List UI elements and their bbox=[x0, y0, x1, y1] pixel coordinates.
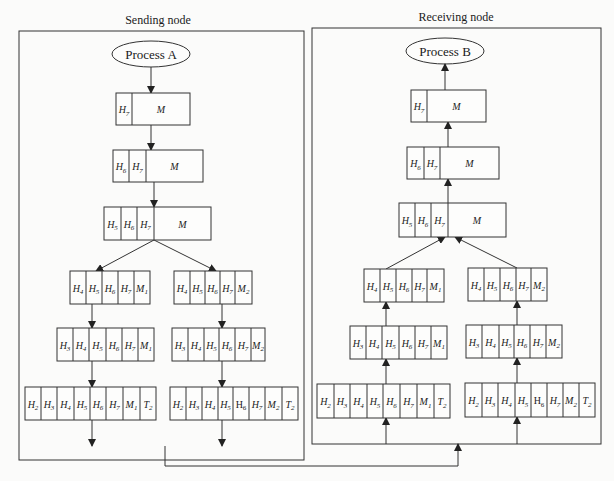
packet-box-L3: H5H6H7M bbox=[104, 207, 211, 240]
field-M: M bbox=[177, 219, 187, 230]
flow-arrow bbox=[154, 240, 216, 271]
packet-box-R5d: H2H3H4H5H6H7M2T2 bbox=[465, 383, 595, 417]
packet-box-R4b: H4H5H6H7M2 bbox=[468, 268, 547, 301]
packet-box-R4a: H4H5H6H7M1 bbox=[364, 269, 444, 302]
packet-box-L5a: H3H4H5H6H7M1 bbox=[57, 328, 154, 361]
packet-box-L1: H7M bbox=[116, 93, 190, 125]
sending-node-title: Sending node bbox=[125, 13, 191, 27]
field-M: M bbox=[451, 101, 461, 112]
packet-box-R3: H5H6H7M bbox=[399, 203, 506, 237]
packet-box-R5b: H3H4H5H6H7M2 bbox=[466, 325, 562, 358]
field-M: M bbox=[464, 158, 474, 169]
packet-box-L6b: H2H3H4H5H6H7M2T2 bbox=[170, 387, 298, 420]
packet-box-R5a: H3H4H5H6H7M1 bbox=[350, 326, 447, 359]
diagram-canvas: Sending node Process AH7MH6H7MH5H6H7MH4H… bbox=[0, 0, 614, 481]
process-label: Process B bbox=[419, 44, 471, 59]
protocol-encapsulation-diagram: Sending node Process AH7MH6H7MH5H6H7MH4H… bbox=[0, 0, 614, 481]
flow-arrow bbox=[96, 240, 154, 271]
field-M: M bbox=[169, 161, 179, 172]
packet-box-L4a: H4H5H6H7M1 bbox=[70, 271, 150, 304]
packet-box-L2: H6H7M bbox=[113, 150, 203, 182]
receiving-node-title: Receiving node bbox=[419, 10, 494, 24]
process-label: Process A bbox=[125, 47, 177, 62]
field-M: M bbox=[472, 215, 482, 226]
link-line bbox=[165, 444, 458, 466]
packet-box-R1: H7M bbox=[411, 90, 486, 122]
field-M: M bbox=[156, 104, 166, 115]
flow-arrow bbox=[386, 237, 445, 269]
packet-box-L4b: H4H5H6H7M2 bbox=[174, 271, 252, 304]
packet-box-R5c: H2H3H4H5H6H7M1T2 bbox=[317, 384, 450, 418]
flow-arrow bbox=[455, 237, 517, 268]
physical-link bbox=[165, 444, 458, 466]
receiving-node-panel: Receiving node Process BH7MH6H7MH5H6H7MH… bbox=[312, 10, 601, 444]
packet-box-L5b: H3H4H5H6H7M2 bbox=[172, 328, 265, 361]
sending-node-panel: Sending node Process AH7MH6H7MH5H6H7MH4H… bbox=[19, 13, 304, 460]
packet-box-L6a: H2H3H4H5H6H7M1T2 bbox=[25, 387, 156, 420]
packet-box-R2: H6H7M bbox=[407, 147, 499, 179]
